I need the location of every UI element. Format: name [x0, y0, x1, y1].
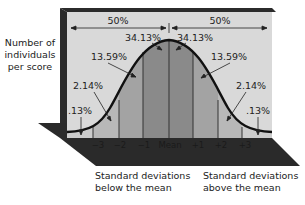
caption-line: below the mean	[95, 182, 190, 194]
x-tick-neg3: −3	[92, 140, 105, 150]
y-axis-label-line: Number of	[2, 37, 58, 49]
x-tick-neg1: −1	[138, 140, 151, 150]
half-label-right: 50%	[209, 15, 230, 26]
caption-line: above the mean	[203, 182, 298, 194]
x-tick-pos1: +1	[192, 140, 205, 150]
frame-left-wall	[60, 8, 67, 138]
half-label-left: 50%	[107, 15, 128, 26]
x-tick-pos2: +2	[215, 140, 228, 150]
pct-tail-left: .13%	[68, 105, 92, 116]
caption-above-mean: Standard deviations above the mean	[203, 170, 298, 194]
pct-outer-left: 2.14%	[73, 80, 103, 91]
x-tick-pos3: +3	[239, 140, 252, 150]
y-axis-label-line: individuals	[2, 49, 58, 61]
y-axis-label: Number of individuals per score	[2, 37, 58, 73]
pct-mid-right: 13.59%	[211, 51, 247, 62]
frame-base-left-wing	[38, 123, 67, 138]
pct-tail-right: .13%	[246, 105, 270, 116]
pct-center-right: 34.13%	[177, 32, 213, 43]
pct-mid-left: 13.59%	[91, 51, 127, 62]
pct-outer-right: 2.14%	[236, 80, 266, 91]
x-tick-neg2: −2	[114, 140, 127, 150]
y-axis-label-line: per score	[2, 61, 58, 73]
pct-center-left: 34.13%	[125, 32, 161, 43]
frame-top-wall	[60, 8, 276, 12]
caption-below-mean: Standard deviations below the mean	[95, 170, 190, 194]
caption-line: Standard deviations	[95, 170, 190, 182]
x-tick-mean: Mean	[158, 140, 181, 150]
caption-line: Standard deviations	[203, 170, 298, 182]
